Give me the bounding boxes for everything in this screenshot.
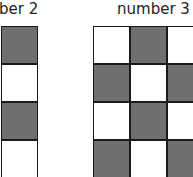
grid-cell-light (167, 26, 193, 64)
grid-cell-dark (167, 64, 193, 102)
grid-cell-light (1, 64, 38, 102)
grid-cell-dark (93, 140, 130, 177)
grid-cell-light (130, 64, 167, 102)
grid-cell-light (93, 102, 130, 140)
grid-cell-dark (1, 26, 38, 64)
grid-cell-dark (130, 102, 167, 140)
pattern-label-number-2: ber 2 (0, 0, 38, 18)
grid-cell-light (1, 140, 38, 177)
grid-cell-dark (167, 140, 193, 177)
pattern-label-number-3: number 3 (117, 0, 190, 18)
grid-cell-light (130, 140, 167, 177)
grid-cell-dark (130, 26, 167, 64)
grid-cell-dark (1, 102, 38, 140)
grid-cell-dark (93, 64, 130, 102)
grid-cell-light (93, 26, 130, 64)
grid-cell-light (167, 102, 193, 140)
